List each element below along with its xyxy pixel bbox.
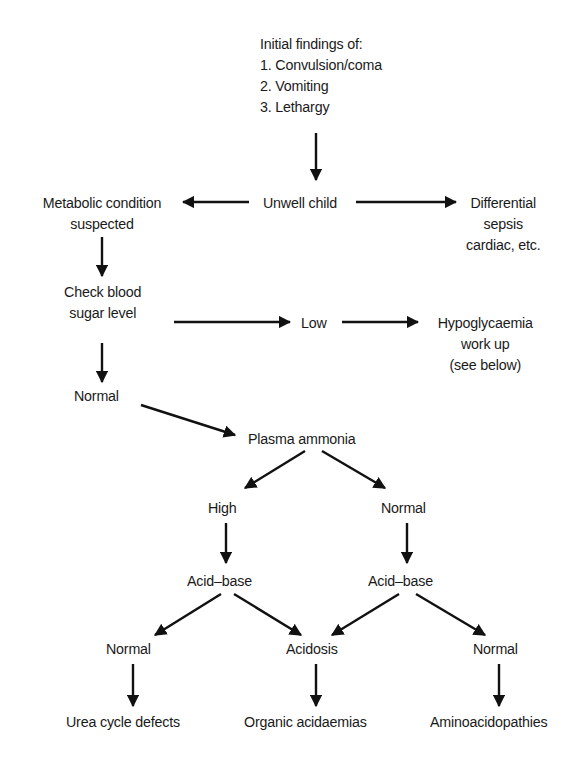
arrow-acidbase-to-normal-right (416, 594, 485, 635)
metabolic-suspected-node: Metabolic condition suspected (33, 192, 171, 234)
finding-item: 3. Lethargy (260, 96, 382, 117)
arrow-acidbase-to-normal-left (155, 594, 221, 635)
arrow-acidbase-to-acidosis-right (332, 594, 399, 635)
unwell-child-node: Unwell child (263, 192, 337, 213)
finding-item: 1. Convulsion/coma (260, 54, 382, 75)
plasma-ammonia-node: Plasma ammonia (248, 428, 356, 449)
organic-acidaemias-node: Organic acidaemias (244, 711, 367, 732)
arrow-acidbase-to-acidosis-left (234, 594, 301, 635)
finding-item: 2. Vomiting (260, 75, 382, 96)
arrow-normal-to-ammonia (141, 405, 235, 435)
arrow-ammonia-to-high (245, 451, 305, 488)
initial-findings-title: Initial findings of: (260, 33, 382, 54)
normal-ammonia-node: Normal (381, 497, 426, 518)
hypoglycaemia-node: Hypoglycaemia work up (see below) (431, 312, 540, 375)
acidosis-node: Acidosis (286, 638, 338, 659)
urea-cycle-defects-node: Urea cycle defects (66, 711, 180, 732)
normal-left-node: Normal (106, 638, 151, 659)
normal-right-node: Normal (473, 638, 518, 659)
arrow-ammonia-to-normal (322, 451, 385, 488)
acid-base-right-node: Acid–base (368, 570, 433, 591)
normal-sugar-node: Normal (74, 385, 119, 406)
check-blood-sugar-node: Check blood sugar level (53, 281, 152, 323)
acid-base-left-node: Acid–base (187, 570, 252, 591)
differential-node: Differential sepsis cardiac, etc. (460, 192, 546, 255)
aminoacidopathies-node: Aminoacidopathies (430, 711, 547, 732)
initial-findings-node: Initial findings of: 1. Convulsion/coma … (260, 33, 382, 117)
high-node: High (208, 497, 237, 518)
low-node: Low (301, 312, 327, 333)
